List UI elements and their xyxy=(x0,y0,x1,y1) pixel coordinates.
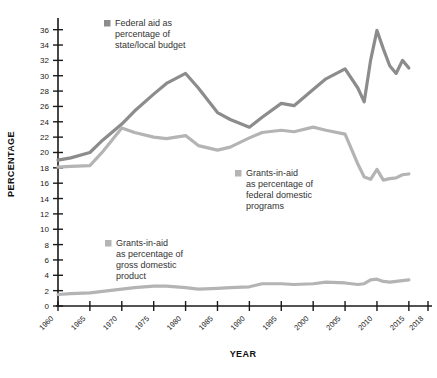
y-axis-tick-label: 22 xyxy=(40,133,49,142)
legend-label: Grants-in-aidas percentage ofgross domes… xyxy=(116,238,184,281)
y-axis-tick-label: 24 xyxy=(40,118,49,127)
y-axis-tick-label: 26 xyxy=(40,102,49,111)
legend-annotation-grants-gdp: Grants-in-aidas percentage ofgross domes… xyxy=(105,238,184,281)
legend-swatch-icon xyxy=(235,170,242,177)
y-axis-tick-label: 14 xyxy=(40,195,49,204)
y-axis-tick-label: 34 xyxy=(40,41,49,50)
x-axis-tick-label: 1975 xyxy=(133,314,151,332)
legend-label: Federal aid aspercentage ofstate/local b… xyxy=(115,18,186,50)
legend-annotation-grants-federal-domestic: Grants-in-aidas percentage offederal dom… xyxy=(235,168,314,211)
y-axis-tick-label: 28 xyxy=(40,87,49,96)
x-axis-tick-label: 2010 xyxy=(356,314,374,332)
x-axis-tick-label: 1960 xyxy=(37,314,55,332)
legend-swatch-icon xyxy=(104,20,111,27)
y-axis-tick-label: 16 xyxy=(40,179,49,188)
legend-label: Grants-in-aidas percentage offederal dom… xyxy=(246,168,314,211)
x-axis-tick-label: 1985 xyxy=(197,314,215,332)
legend-swatch-icon xyxy=(105,240,112,247)
legend-annotation-federal-aid-state-local: Federal aid aspercentage ofstate/local b… xyxy=(104,18,186,50)
y-axis-tick-label: 30 xyxy=(40,72,49,81)
chart-canvas: 0246810121416182022242628303234361960196… xyxy=(0,0,437,378)
line-chart: 0246810121416182022242628303234361960196… xyxy=(0,0,437,378)
x-axis-tick-label: 2015 xyxy=(388,314,406,332)
x-axis-tick-label: 2000 xyxy=(292,314,310,332)
y-axis-tick-label: 18 xyxy=(40,164,49,173)
data-series-line-3 xyxy=(58,279,409,294)
y-axis-tick-label: 12 xyxy=(40,210,49,219)
y-axis-tick-label: 10 xyxy=(40,225,49,234)
y-axis-title: PERCENTAGE xyxy=(6,131,16,197)
y-axis-tick-label: 4 xyxy=(45,271,50,280)
x-axis-tick-label: 1965 xyxy=(69,314,87,332)
y-axis-tick-label: 8 xyxy=(45,241,50,250)
x-axis-tick-label: 1980 xyxy=(165,314,183,332)
y-axis-tick-label: 2 xyxy=(45,287,50,296)
x-axis-tick-label: 2005 xyxy=(324,314,342,332)
y-axis-tick-label: 20 xyxy=(40,148,49,157)
y-axis-tick-label: 6 xyxy=(45,256,50,265)
x-axis-tick-label: 1990 xyxy=(229,314,247,332)
x-axis-tick-label: 2018 xyxy=(407,314,425,332)
y-axis-tick-label: 32 xyxy=(40,56,49,65)
x-axis-title: YEAR xyxy=(230,349,257,359)
x-axis-tick-label: 1995 xyxy=(261,314,279,332)
y-axis-tick-label: 0 xyxy=(45,302,50,311)
y-axis-tick-label: 36 xyxy=(40,26,49,35)
x-axis-tick-label: 1970 xyxy=(101,314,119,332)
